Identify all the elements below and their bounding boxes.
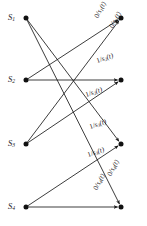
source-label-subscript: 3 <box>12 142 15 148</box>
dest-node-d2 <box>119 78 124 83</box>
source-label-subscript: 2 <box>12 78 15 84</box>
transition-diagram: S1S2S3S4 0/s1(t)0/s1(t)1/s2(t)1/s2(t)1/s… <box>0 0 147 226</box>
source-label-subscript: 1 <box>12 16 15 22</box>
source-label-s4: S4 <box>8 202 15 212</box>
dest-node-d4 <box>119 205 124 210</box>
source-node-s4 <box>24 205 29 210</box>
edge-s3-to-d2 <box>28 82 118 143</box>
source-label-s1: S1 <box>8 13 15 23</box>
source-label-subscript: 4 <box>12 205 15 211</box>
source-node-s2 <box>24 78 29 83</box>
source-label-s2: S2 <box>8 75 15 85</box>
source-label-s3: S3 <box>8 139 15 149</box>
diagram-canvas <box>0 0 147 226</box>
dest-node-d3 <box>119 142 124 147</box>
source-node-s3 <box>24 142 29 147</box>
source-node-s1 <box>24 16 29 21</box>
